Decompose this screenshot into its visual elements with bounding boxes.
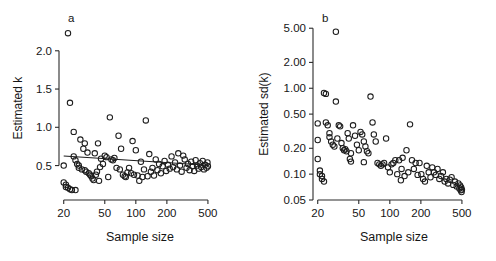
data-point [117, 167, 122, 172]
panel-b-plot: 0.050.100.200.501.002.005.00205010020050… [248, 0, 496, 261]
panel-b: 0.050.100.200.501.002.005.00205010020050… [248, 0, 496, 261]
data-point [411, 166, 416, 171]
y-tick-label: 2.00 [284, 56, 306, 68]
data-point [373, 139, 378, 144]
data-point [333, 29, 338, 34]
y-tick-label: 0.10 [284, 168, 306, 180]
data-point [346, 136, 351, 141]
data-point [368, 94, 373, 99]
data-point [143, 118, 148, 123]
data-point [114, 165, 119, 170]
data-point [383, 136, 388, 141]
data-points [315, 29, 465, 195]
x-tick-label: 100 [126, 207, 145, 219]
x-tick-label: 200 [411, 207, 430, 219]
data-point [96, 178, 101, 183]
data-point [106, 174, 111, 179]
data-point [428, 175, 433, 180]
data-point [315, 137, 320, 142]
x-tick-label: 500 [198, 207, 217, 219]
data-point [417, 160, 422, 165]
x-axis-title: Sample size [360, 230, 428, 244]
data-point [323, 91, 328, 96]
y-tick-label: 0.5 [36, 160, 52, 172]
data-point [354, 142, 359, 147]
data-point [151, 173, 156, 178]
data-points [61, 30, 211, 192]
data-point [387, 170, 392, 175]
data-point [356, 148, 361, 153]
data-point [371, 132, 376, 137]
data-point [370, 120, 375, 125]
x-tick-label: 20 [311, 207, 324, 219]
data-point [61, 163, 66, 168]
x-axis-title: Sample size [106, 230, 174, 244]
data-point [133, 148, 138, 153]
data-point [361, 159, 366, 164]
y-tick-label: 1.5 [36, 83, 52, 95]
data-point [169, 154, 174, 159]
data-point [82, 141, 87, 146]
y-tick-label: 0.20 [284, 142, 306, 154]
data-point [345, 130, 350, 135]
data-point [92, 151, 97, 156]
data-point [85, 150, 90, 155]
data-point [315, 156, 320, 161]
data-point [65, 30, 70, 35]
data-point [404, 148, 409, 153]
x-tick-label: 50 [98, 207, 111, 219]
y-tick-label: 0.05 [284, 194, 306, 206]
x-tick-label: 50 [352, 207, 365, 219]
data-point [140, 174, 145, 179]
figure-container: 0.51.01.52.02050100200500Sample sizeEsti… [0, 0, 496, 261]
data-point [424, 163, 429, 168]
x-tick-label: 20 [57, 207, 70, 219]
y-axis-title: Estimated k [11, 76, 25, 140]
data-point [71, 129, 76, 134]
panel-a-plot: 0.51.01.52.02050100200500Sample sizeEsti… [0, 0, 248, 261]
y-tick-label: 0.50 [284, 108, 306, 120]
data-point [130, 138, 135, 143]
data-point [67, 100, 72, 105]
data-point [95, 141, 100, 146]
panel-letter: a [68, 12, 75, 24]
data-point [337, 124, 342, 129]
data-point [407, 122, 412, 127]
data-point [138, 159, 143, 164]
data-point [147, 151, 152, 156]
y-tick-label: 2.0 [36, 45, 52, 57]
data-point [335, 136, 340, 141]
y-tick-label: 5.00 [284, 22, 306, 34]
x-tick-label: 500 [452, 207, 471, 219]
data-point [141, 167, 146, 172]
data-point [350, 123, 355, 128]
data-point [116, 133, 121, 138]
data-point [118, 146, 123, 151]
data-point [399, 166, 404, 171]
data-point [179, 169, 184, 174]
panel-letter: b [322, 12, 328, 24]
data-point [380, 162, 385, 167]
data-point [107, 115, 112, 120]
data-point [348, 151, 353, 156]
y-tick-label: 1.00 [284, 82, 306, 94]
data-point [395, 171, 400, 176]
data-point [333, 99, 338, 104]
y-tick-label: 1.0 [36, 121, 52, 133]
data-point [73, 187, 78, 192]
data-point [315, 121, 320, 126]
x-tick-label: 200 [157, 207, 176, 219]
panel-a: 0.51.01.52.02050100200500Sample sizeEsti… [0, 0, 248, 261]
data-point [339, 140, 344, 145]
data-point [158, 171, 163, 176]
data-point [406, 170, 411, 175]
data-point [352, 133, 357, 138]
data-point [155, 167, 160, 172]
x-tick-label: 100 [380, 207, 399, 219]
y-axis-title: Estimated sd(k) [257, 72, 271, 155]
data-point [435, 166, 440, 171]
